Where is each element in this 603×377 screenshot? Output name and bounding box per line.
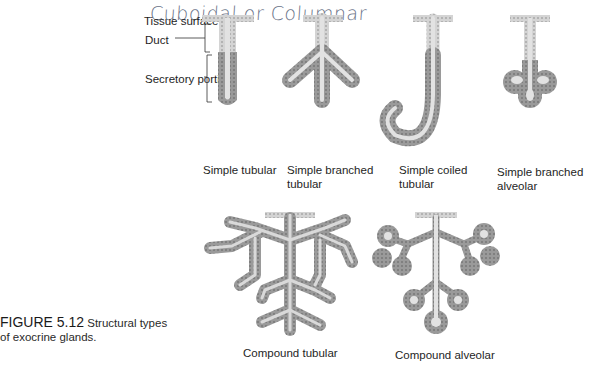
caption-simple-branched-tubular: Simple branched tubular: [287, 163, 373, 191]
compound-tubular-gland: [210, 212, 352, 330]
figure-number: FIGURE 5.12: [0, 314, 84, 330]
simple-branched-alveolar-gland: [503, 15, 557, 108]
caption-compound-tubular: Compound tubular: [243, 346, 338, 360]
simple-branched-tubular-gland: [290, 15, 352, 100]
compound-alveolar-gland: [372, 212, 500, 334]
figure-caption-text-1: Structural types: [87, 317, 167, 329]
figure-caption: FIGURE 5.12 Structural types of exocrine…: [0, 315, 167, 344]
caption-compound-alveolar: Compound alveolar: [395, 348, 495, 362]
simple-coiled-tubular-gland: [388, 15, 454, 138]
figure-caption-text-2: of exocrine glands.: [0, 331, 97, 343]
caption-simple-coiled-tubular: Simple coiled tubular: [399, 163, 467, 191]
caption-simple-tubular: Simple tubular: [203, 163, 277, 177]
caption-simple-branched-alveolar: Simple branched alveolar: [497, 165, 583, 193]
label-leader-lines: [175, 24, 212, 102]
simple-tubular-gland: [202, 15, 254, 105]
